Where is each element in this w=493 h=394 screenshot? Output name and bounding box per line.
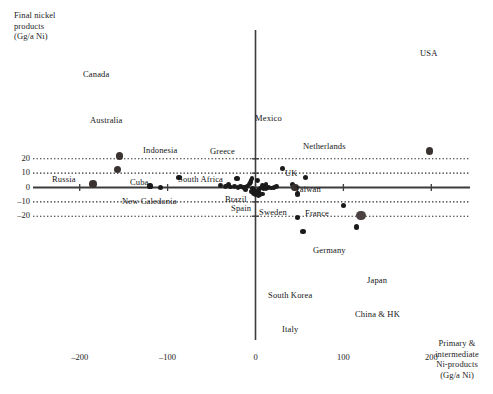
data-label-japan: Japan — [367, 275, 387, 285]
data-label-netherlands: Netherlands — [303, 141, 346, 151]
data-point-usa — [426, 147, 433, 154]
data-label-germany: Germany — [313, 245, 346, 255]
data-point-germany — [341, 203, 346, 208]
data-label-mexico: Mexico — [255, 113, 282, 123]
x-tick-label-0: 0 — [231, 352, 281, 362]
data-point — [218, 183, 223, 188]
data-point — [260, 183, 265, 188]
x-tick-label-200: 200 — [406, 352, 456, 362]
data-label-spain: Spain — [231, 203, 251, 213]
data-point-russia — [89, 180, 96, 187]
scatter-plot-canvas: Final nickel products (Gg/a Ni) Primary … — [0, 0, 493, 394]
data-label-taiwan: Taiwan — [295, 184, 321, 194]
data-point-canada — [116, 152, 123, 159]
data-label-new-caledonia: New Caledonia — [122, 196, 177, 206]
data-label-cuba: Cuba — [130, 177, 149, 187]
data-label-australia: Australia — [90, 115, 123, 125]
data-label-south-korea: South Korea — [268, 290, 312, 300]
data-label-sweden: Sweden — [259, 207, 287, 217]
data-label-italy: Italy — [282, 324, 298, 334]
y-tick-label-0: 0 — [6, 182, 30, 192]
y-tick-label-20: 20 — [6, 153, 30, 163]
data-point-greece — [234, 176, 239, 181]
data-point — [274, 184, 279, 189]
data-point-china-hk — [354, 224, 359, 229]
data-point-italy — [300, 229, 305, 234]
y-tick-label-10: 10 — [6, 167, 30, 177]
data-label-china-hk: China & HK — [355, 309, 400, 319]
data-point — [255, 178, 260, 183]
y-tick-label--20: –20 — [6, 210, 30, 220]
x-tick-label-100: 100 — [318, 352, 368, 362]
y-axis-title: Final nickel products (Gg/a Ni) — [14, 10, 56, 42]
data-label-south-africa: South Africa — [178, 174, 223, 184]
y-tick-label--10: –10 — [6, 196, 30, 206]
data-label-indonesia: Indonesia — [143, 145, 177, 155]
x-tick-label--200: –200 — [55, 352, 105, 362]
data-label-france: France — [305, 208, 329, 218]
data-point-japan — [356, 211, 366, 221]
data-label-uk: UK — [285, 168, 298, 178]
data-label-canada: Canada — [83, 69, 109, 79]
data-label-usa: USA — [420, 48, 437, 58]
x-tick-label--100: –100 — [143, 352, 193, 362]
data-label-greece: Greece — [210, 146, 235, 156]
data-point-south-africa — [226, 182, 231, 187]
data-label-russia: Russia — [52, 174, 76, 184]
